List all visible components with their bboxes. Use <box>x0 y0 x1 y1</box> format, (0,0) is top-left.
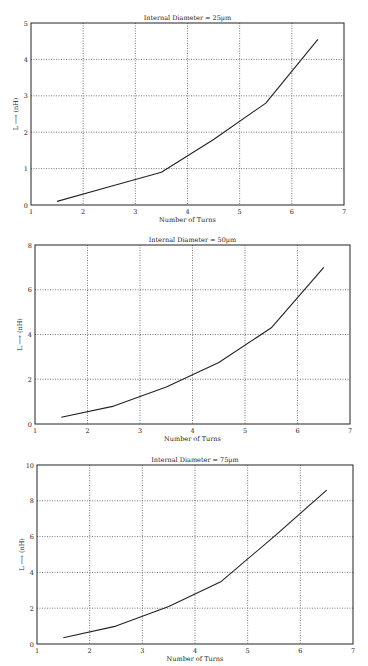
x-tick-label: 7 <box>348 427 352 435</box>
charts-container: 1234567012345Internal Diameter = 25µmNum… <box>0 0 368 666</box>
y-tick-label: 0 <box>30 641 34 649</box>
x-tick-label: 3 <box>138 427 142 435</box>
chart-title: Internal Diameter = 75µm <box>151 456 239 464</box>
x-tick-label: 1 <box>33 427 37 435</box>
x-tick-label: 7 <box>342 208 346 216</box>
x-tick-label: 2 <box>88 647 92 655</box>
x-tick-label: 4 <box>193 647 197 655</box>
y-tick-label: 6 <box>28 286 32 294</box>
x-tick-label: 3 <box>140 647 144 655</box>
grid <box>31 23 344 205</box>
y-tick-label: 4 <box>24 56 28 64</box>
charts-svg: 1234567012345Internal Diameter = 25µmNum… <box>0 0 368 666</box>
x-tick-label: 1 <box>29 208 33 216</box>
x-tick-label: 2 <box>85 427 89 435</box>
x-tick-label: 6 <box>290 208 294 216</box>
chart-title: Internal Diameter = 50µm <box>149 236 237 244</box>
x-axis-label: Number of Turns <box>164 435 221 443</box>
y-tick-label: 4 <box>28 331 32 339</box>
y-tick-label: 8 <box>28 242 32 250</box>
chart-title: Internal Diameter = 25µm <box>144 14 232 22</box>
x-tick-label: 5 <box>238 208 242 216</box>
x-tick-label: 4 <box>185 208 189 216</box>
x-tick-label: 5 <box>246 647 250 655</box>
y-axis-label: L ⟶ (nH) <box>18 538 26 571</box>
y-tick-label: 5 <box>24 20 28 28</box>
y-tick-label: 2 <box>24 129 28 137</box>
y-tick-label: 4 <box>30 569 34 577</box>
y-tick-label: 8 <box>30 497 34 505</box>
x-tick-label: 6 <box>295 427 299 435</box>
x-tick-label: 7 <box>351 647 355 655</box>
y-tick-label: 1 <box>24 165 28 173</box>
chart-2: 123456702468Internal Diameter = 50µmNumb… <box>16 236 352 443</box>
x-tick-label: 1 <box>35 647 39 655</box>
y-axis-label: L ⟶ (nH) <box>16 318 24 351</box>
x-axis-label: Number of Turns <box>167 655 224 663</box>
x-axis-label: Number of Turns <box>159 216 216 224</box>
x-tick-label: 3 <box>133 208 137 216</box>
y-tick-label: 10 <box>26 462 34 470</box>
chart-1: 1234567012345Internal Diameter = 25µmNum… <box>12 14 346 224</box>
x-tick-label: 6 <box>298 647 302 655</box>
x-tick-label: 4 <box>190 427 194 435</box>
plot-frame <box>37 465 353 644</box>
grid <box>37 465 353 644</box>
y-tick-label: 2 <box>30 605 34 613</box>
y-tick-label: 6 <box>30 533 34 541</box>
grid <box>35 245 350 424</box>
y-tick-label: 2 <box>28 376 32 384</box>
y-tick-label: 3 <box>24 92 28 100</box>
x-tick-label: 2 <box>81 208 85 216</box>
x-tick-label: 5 <box>243 427 247 435</box>
y-tick-label: 0 <box>28 421 32 429</box>
chart-3: 12345670246810Internal Diameter = 75µmNu… <box>18 456 355 663</box>
y-axis-label: L ⟶ (nH) <box>12 97 20 130</box>
y-tick-label: 0 <box>24 202 28 210</box>
